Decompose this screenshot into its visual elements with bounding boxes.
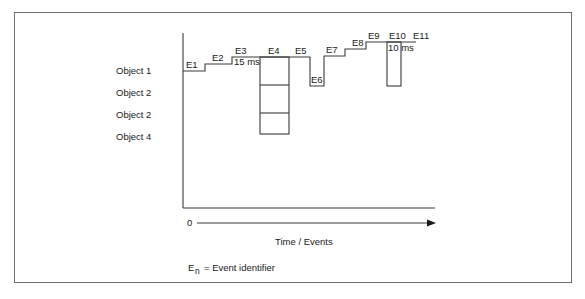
legend: E n = Event identifier [188,262,275,276]
time-axis: 0 Time / Events [187,217,436,247]
duration-label-e10: 10 ms [388,42,414,53]
e4-multi-object-box [260,57,289,134]
event-label-e4: E4 [268,45,280,56]
object-label-1: Object 1 [116,65,151,76]
legend-symbol-subscript: n [195,266,200,276]
object-labels: Object 1 Object 2 Object 2 Object 4 [116,65,151,142]
legend-symbol-base: E [188,262,194,273]
duration-label-e3: 15 ms [234,56,260,67]
time-origin-label: 0 [187,217,192,228]
time-axis-title: Time / Events [275,236,333,247]
event-label-e11: E11 [413,30,429,41]
object-label-4: Object 4 [116,131,151,142]
object-label-3: Object 2 [116,109,151,120]
object-label-2: Object 2 [116,87,151,98]
legend-text: = Event identifier [204,262,275,273]
event-label-e2: E2 [212,52,224,63]
event-label-e9: E9 [368,30,380,41]
event-label-e7: E7 [326,44,338,55]
event-label-e5: E5 [295,45,307,56]
event-label-e10: E10 [389,30,406,41]
event-timeline-diagram: Object 1 Object 2 Object 2 Object 4 E1 E… [0,0,585,299]
event-label-e1: E1 [186,59,198,70]
event-label-e3: E3 [235,45,247,56]
event-label-e6: E6 [311,74,323,85]
event-label-e8: E8 [352,37,364,48]
arrowhead-icon [427,220,436,227]
